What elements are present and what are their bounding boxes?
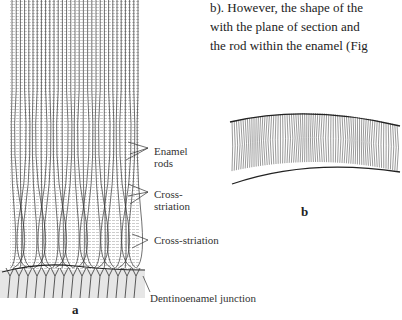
caption-a: a — [72, 302, 79, 318]
caption-b: b — [301, 204, 308, 220]
label-pointers — [0, 0, 402, 320]
label-cross-striation-1: Cross- striation — [154, 188, 190, 212]
label-dentinoenamel-junction: Dentinoenamel junction — [150, 292, 256, 304]
label-cross-striation-2: Cross-striation — [154, 234, 219, 246]
label-enamel-rods: Enamel rods — [154, 145, 188, 169]
